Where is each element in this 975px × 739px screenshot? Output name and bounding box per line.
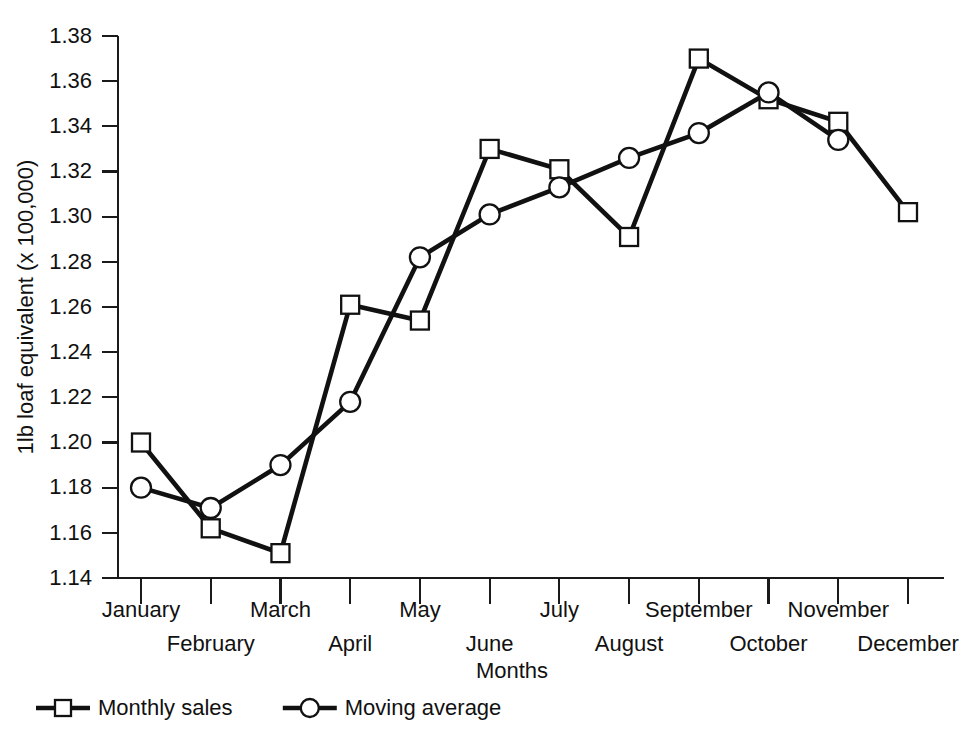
data-point-marker bbox=[341, 296, 359, 314]
legend-square-marker-icon bbox=[55, 700, 71, 716]
data-point-marker bbox=[690, 50, 708, 68]
y-tick-label: 1.16 bbox=[49, 520, 92, 545]
data-point-marker bbox=[201, 498, 221, 518]
y-tick-label: 1.30 bbox=[49, 203, 92, 228]
chart-canvas: 1lb loaf equivalent (x 100,000) 1.381.36… bbox=[0, 0, 975, 739]
y-tick-label: 1.38 bbox=[49, 23, 92, 48]
y-tick-label: 1.26 bbox=[49, 294, 92, 319]
y-tick-label: 1.22 bbox=[49, 384, 92, 409]
data-point-marker bbox=[410, 247, 430, 267]
x-tick-label: May bbox=[399, 597, 441, 622]
data-point-marker bbox=[411, 312, 429, 330]
data-point-marker bbox=[759, 82, 779, 102]
data-point-marker bbox=[620, 228, 638, 246]
data-point-marker bbox=[131, 478, 151, 498]
data-point-marker bbox=[829, 113, 847, 131]
x-tick-label: April bbox=[328, 631, 372, 656]
y-tick-label: 1.32 bbox=[49, 158, 92, 183]
data-point-marker bbox=[132, 434, 150, 452]
x-tick-label: June bbox=[466, 631, 514, 656]
x-axis-title: Months bbox=[476, 658, 548, 683]
legend-label: Moving average bbox=[345, 695, 502, 720]
x-tick-label: September bbox=[645, 597, 753, 622]
y-tick-label: 1.14 bbox=[49, 565, 92, 590]
data-point-marker bbox=[340, 392, 360, 412]
x-tick-label: October bbox=[729, 631, 807, 656]
data-point-marker bbox=[270, 455, 290, 475]
data-point-marker bbox=[550, 160, 568, 178]
x-tick-label: August bbox=[595, 631, 664, 656]
data-point-marker bbox=[202, 519, 220, 537]
data-point-marker bbox=[271, 544, 289, 562]
x-tick-label: March bbox=[250, 597, 311, 622]
x-tick-label: January bbox=[102, 597, 180, 622]
data-point-marker bbox=[619, 148, 639, 168]
chart-background bbox=[0, 0, 975, 739]
y-tick-label: 1.36 bbox=[49, 68, 92, 93]
x-tick-label: February bbox=[167, 631, 255, 656]
y-tick-label: 1.28 bbox=[49, 249, 92, 274]
data-point-marker bbox=[549, 177, 569, 197]
y-axis-title: 1lb loaf equivalent (x 100,000) bbox=[13, 160, 38, 455]
data-point-marker bbox=[828, 130, 848, 150]
data-point-marker bbox=[481, 140, 499, 158]
legend-circle-marker-icon bbox=[301, 699, 319, 717]
legend-label: Monthly sales bbox=[98, 695, 233, 720]
y-tick-label: 1.18 bbox=[49, 474, 92, 499]
data-point-marker bbox=[899, 203, 917, 221]
y-tick-label: 1.20 bbox=[49, 429, 92, 454]
x-tick-label: December bbox=[857, 631, 958, 656]
data-point-marker bbox=[480, 204, 500, 224]
data-point-marker bbox=[689, 123, 709, 143]
line-chart: 1lb loaf equivalent (x 100,000) 1.381.36… bbox=[0, 0, 975, 739]
x-tick-label: November bbox=[788, 597, 889, 622]
x-tick-label: July bbox=[540, 597, 579, 622]
y-tick-label: 1.24 bbox=[49, 339, 92, 364]
y-tick-label: 1.34 bbox=[49, 113, 92, 138]
